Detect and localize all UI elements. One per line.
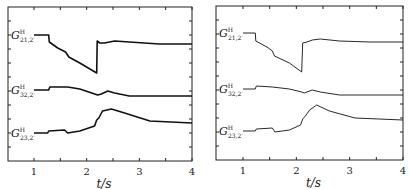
chart-panel-1: 1234t/sGH21,2′GH32,2′GH23,2′	[8, 7, 195, 189]
series-line-232	[34, 109, 192, 133]
x-tick-label: 2	[83, 166, 89, 177]
series-line-322	[243, 86, 403, 95]
series-line-212	[34, 35, 192, 73]
plot-frame	[8, 7, 192, 161]
x-tick-label: 1	[240, 165, 246, 176]
series-label: GH32,2′	[219, 82, 243, 97]
series-label: GH23,2′	[11, 126, 35, 141]
plot-frame	[216, 6, 403, 160]
chart-panel-2: 1234t/sGH21,2′GH32,2′GH23,2′	[216, 6, 406, 189]
series-line-212	[243, 33, 403, 72]
series-label: GH21,2′	[11, 28, 35, 43]
x-tick-label: 3	[346, 165, 352, 176]
x-tick-label: 2	[293, 165, 299, 176]
series-line-322	[34, 87, 192, 96]
x-tick-label: 3	[136, 166, 142, 177]
series-label: GH32,2′	[11, 83, 35, 98]
series-label: GH21,2′	[219, 26, 243, 41]
x-tick-label: 1	[31, 166, 37, 177]
x-tick-label: 4	[189, 166, 195, 177]
series-line-232	[243, 105, 403, 132]
x-axis-label: t/s	[306, 176, 321, 189]
figure: 1234t/sGH21,2′GH32,2′GH23,2′1234t/sGH21,…	[0, 0, 409, 189]
series-label: GH23,2′	[219, 124, 243, 139]
x-tick-label: 4	[400, 165, 406, 176]
x-axis-label: t/s	[96, 177, 111, 189]
